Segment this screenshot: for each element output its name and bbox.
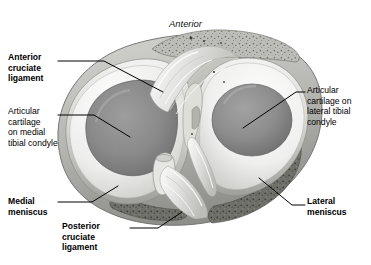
anatomy-figure-knee-tibial-plateau: Anterior [0,0,371,265]
label-posterior-cruciate-ligament: Posterior cruciate ligament [62,221,172,253]
label-medial-meniscus: Medial meniscus [8,196,104,217]
lateral-tibial-condyle-cartilage [212,84,292,156]
label-anterior-cruciate-ligament: Anterior cruciate ligament [8,52,104,84]
label-lateral-meniscus: Lateral meniscus [307,196,371,217]
label-articular-cartilage-medial-tibial-condyle: Articular cartilage on medial tibial con… [8,106,104,148]
label-articular-cartilage-lateral-tibial-condyle: Articular cartilage on lateral tibial co… [307,85,371,127]
